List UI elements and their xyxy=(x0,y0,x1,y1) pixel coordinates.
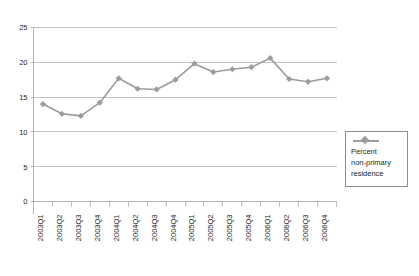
legend-label-line2: non-primary xyxy=(351,157,403,168)
x-axis-label-2005Q3: 2005Q3 xyxy=(225,215,234,242)
x-axis-label-2006Q2: 2006Q2 xyxy=(282,215,291,242)
y-axis-label-20: 20 xyxy=(19,58,27,67)
x-axis-label-2005Q1: 2005Q1 xyxy=(187,215,196,242)
x-axis-label-2004Q3: 2004Q3 xyxy=(150,215,159,242)
x-axis-label-2005Q4: 2005Q4 xyxy=(244,215,253,242)
legend-label-line3: residence xyxy=(351,168,403,179)
data-point-2003Q2 xyxy=(59,111,65,117)
chart-legend: Percent non-primary residence xyxy=(345,131,408,187)
data-point-2006Q4 xyxy=(324,75,330,81)
y-axis-label-15: 15 xyxy=(19,93,27,102)
data-point-2006Q3 xyxy=(305,79,311,85)
y-axis-label-10: 10 xyxy=(19,128,27,137)
x-axis-label-2004Q1: 2004Q1 xyxy=(112,215,121,242)
data-point-2004Q2 xyxy=(135,86,141,92)
line-chart: 05101520252003Q12003Q22003Q32003Q42004Q1… xyxy=(0,0,419,276)
data-point-2005Q2 xyxy=(210,69,216,75)
legend-marker xyxy=(351,136,403,145)
x-axis-label-2003Q2: 2003Q2 xyxy=(55,215,64,242)
data-point-2004Q3 xyxy=(153,86,159,92)
data-point-2003Q1 xyxy=(40,101,46,107)
series-line-percent-non-primary-residence xyxy=(43,58,327,116)
x-axis-label-2003Q1: 2003Q1 xyxy=(36,215,45,242)
x-axis-label-2006Q4: 2006Q4 xyxy=(320,215,329,242)
x-axis-label-2003Q4: 2003Q4 xyxy=(93,215,102,242)
y-axis-label-25: 25 xyxy=(19,23,27,32)
legend-diamond-icon xyxy=(361,136,369,144)
y-axis-label-5: 5 xyxy=(23,163,27,172)
x-axis-label-2006Q1: 2006Q1 xyxy=(263,215,272,242)
x-axis-label-2003Q3: 2003Q3 xyxy=(74,215,83,242)
y-axis-label-0: 0 xyxy=(23,197,27,206)
data-point-2005Q3 xyxy=(229,66,235,72)
legend-label-line1: Percent xyxy=(351,146,403,157)
x-axis-label-2004Q4: 2004Q4 xyxy=(169,215,178,242)
x-axis-label-2004Q2: 2004Q2 xyxy=(131,215,140,242)
data-point-2005Q4 xyxy=(248,64,254,70)
x-axis-label-2005Q2: 2005Q2 xyxy=(206,215,215,242)
x-axis-label-2006Q3: 2006Q3 xyxy=(301,215,310,242)
